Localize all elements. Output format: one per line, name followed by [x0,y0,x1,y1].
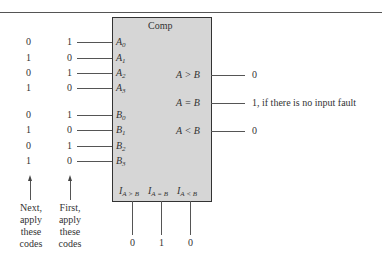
first-arrow-icon [68,175,72,181]
input-pin-label: A3 [116,82,126,97]
output-pin-label: A > B [176,69,200,81]
cascade-pin-label: IA < B [177,185,197,200]
output-value: 0 [252,69,257,81]
pin-index: A = B [151,190,168,198]
input-line [77,115,112,116]
cascade-pin-label: IA > B [119,185,139,200]
output-pin-label: A = B [176,97,200,109]
first-code-bit: 1 [67,140,72,152]
pin-index: 1 [122,129,126,137]
pin-index: 3 [122,87,126,95]
caption-line: these [19,226,43,238]
cascade-line [190,201,191,235]
input-line [77,161,112,162]
next-code-bit: 1 [26,52,31,64]
caption-line: First, [58,202,82,214]
first-arrow-shaft [70,178,71,200]
pin-index: 0 [122,114,126,122]
input-pin-label: B2 [116,140,126,155]
next-caption: Next, apply these codes [19,202,43,250]
caption-line: codes [58,238,82,250]
caption-line: apply [58,214,82,226]
output-value: 0 [252,125,257,137]
cascade-value: 0 [130,237,135,249]
pin-index: 3 [122,160,126,168]
input-pin-label: A1 [116,52,126,67]
first-code-bit: 1 [67,36,72,48]
first-code-bit: 1 [67,109,72,121]
output-line [211,103,245,104]
input-pin-label: A2 [116,67,126,82]
cascade-pin-label: IA = B [148,185,168,200]
input-pin-label: B3 [116,155,126,170]
next-arrow-icon [28,175,32,181]
caption-line: apply [19,214,43,226]
first-code-bit: 0 [67,155,72,167]
input-line [77,58,112,59]
input-line [77,130,112,131]
first-code-bit: 1 [67,67,72,79]
next-code-bit: 0 [26,67,31,79]
next-code-bit: 0 [26,140,31,152]
input-pin-label: B1 [116,124,126,139]
cascade-value: 0 [188,237,193,249]
input-pin-label: A0 [116,36,126,51]
pin-index: 0 [122,41,126,49]
cascade-value: 1 [159,237,164,249]
output-value: 1, if there is no input fault [252,97,356,109]
cascade-line [161,201,162,235]
next-code-bit: 0 [26,36,31,48]
caption-line: these [58,226,82,238]
first-code-bit: 0 [67,124,72,136]
output-pin-label: A < B [176,125,200,137]
next-arrow-shaft [30,178,31,200]
pin-index: A > B [122,190,139,198]
top-rule [0,12,382,13]
input-line [77,88,112,89]
first-caption: First, apply these codes [58,202,82,250]
output-line [211,131,245,132]
input-line [77,146,112,147]
input-line [77,42,112,43]
first-code-bit: 0 [67,52,72,64]
first-code-bit: 0 [67,82,72,94]
input-pin-label: B0 [116,109,126,124]
pin-index: 2 [122,145,126,153]
caption-line: Next, [19,202,43,214]
next-code-bit: 0 [26,109,31,121]
next-code-bit: 1 [26,155,31,167]
cascade-line [132,201,133,235]
next-code-bit: 1 [26,82,31,94]
comparator-block [112,17,212,202]
input-line [77,73,112,74]
component-title: Comp [148,20,172,32]
pin-index: 2 [122,72,126,80]
caption-line: codes [19,238,43,250]
next-code-bit: 1 [26,124,31,136]
pin-index: 1 [122,57,126,65]
pin-index: A < B [180,190,197,198]
output-line [211,75,245,76]
